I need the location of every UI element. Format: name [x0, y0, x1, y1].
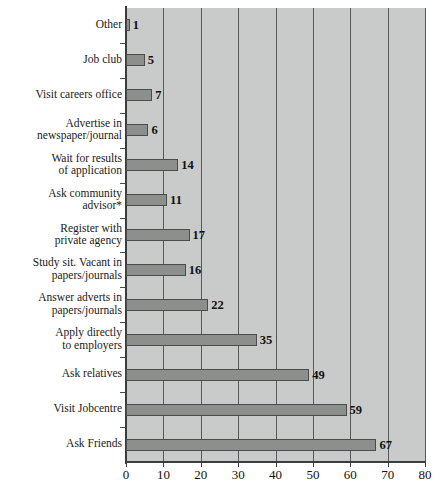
bar-value-label: 1	[133, 19, 139, 31]
category-label: Other	[2, 18, 122, 31]
bar-value-label: 5	[148, 54, 154, 66]
bar	[126, 124, 148, 136]
x-tick-label-20: 20	[186, 468, 216, 482]
bar-value-label: 49	[312, 369, 325, 381]
x-tick-label-0: 0	[111, 468, 141, 482]
y-axis-tick	[120, 183, 125, 184]
bar-value-label: 6	[151, 124, 157, 136]
y-axis-tick	[120, 427, 125, 428]
category-label: Wait for results of application	[2, 152, 122, 177]
y-axis-tick	[120, 322, 125, 323]
bar-value-label: 17	[193, 229, 206, 241]
y-axis-tick	[120, 252, 125, 253]
bar	[126, 439, 376, 451]
y-axis-tick	[120, 78, 125, 79]
y-axis-tick	[120, 113, 125, 114]
gridline-40	[276, 8, 277, 462]
category-label: Advertise in newspaper/journal	[2, 117, 122, 142]
y-axis-tick	[120, 218, 125, 219]
bar	[126, 194, 167, 206]
y-axis-tick	[120, 392, 125, 393]
gridline-80	[425, 8, 426, 462]
y-axis-tick	[120, 357, 125, 358]
bar-value-label: 67	[379, 439, 392, 451]
bar	[126, 229, 190, 241]
bar	[126, 89, 152, 101]
category-labels-layer: OtherJob clubVisit careers officeAdverti…	[0, 0, 122, 497]
y-axis-tick	[120, 43, 125, 44]
category-label: Visit Jobcentre	[2, 402, 122, 415]
category-label: Study sit. Vacant in papers/journals	[2, 256, 122, 281]
bar	[126, 159, 178, 171]
x-tick-label-40: 40	[261, 468, 291, 482]
bar-value-label: 16	[189, 264, 202, 276]
category-label: Ask relatives	[2, 367, 122, 380]
bar	[126, 54, 145, 66]
bar-value-label: 59	[350, 404, 363, 416]
category-label: Answer adverts in papers/journals	[2, 291, 122, 316]
x-tick-label-10: 10	[148, 468, 178, 482]
bar	[126, 19, 130, 31]
bar-value-label: 35	[260, 334, 273, 346]
gridline-60	[350, 8, 351, 462]
x-tick-label-80: 80	[410, 468, 440, 482]
x-tick-label-60: 60	[335, 468, 365, 482]
category-label: Ask community advisor*	[2, 187, 122, 212]
bar	[126, 369, 309, 381]
bar	[126, 264, 186, 276]
bar-value-label: 11	[170, 194, 182, 206]
bar	[126, 299, 208, 311]
category-label: Register with private agency	[2, 222, 122, 247]
category-label: Ask Friends	[2, 437, 122, 450]
gridline-70	[388, 8, 389, 462]
gridline-50	[313, 8, 314, 462]
bar	[126, 404, 347, 416]
x-tick-label-70: 70	[373, 468, 403, 482]
y-axis-tick	[120, 148, 125, 149]
category-label: Visit careers office	[2, 88, 122, 101]
category-label: Apply directly to employers	[2, 326, 122, 351]
category-label: Job club	[2, 53, 122, 66]
x-tick-label-30: 30	[223, 468, 253, 482]
gridline-30	[238, 8, 239, 462]
bar-chart: OtherJob clubVisit careers officeAdverti…	[0, 0, 443, 497]
bar-value-label: 14	[181, 159, 194, 171]
bar-value-label: 7	[155, 89, 161, 101]
x-tick-label-50: 50	[298, 468, 328, 482]
bar	[126, 334, 257, 346]
y-axis-tick	[120, 287, 125, 288]
bar-value-label: 22	[211, 299, 224, 311]
